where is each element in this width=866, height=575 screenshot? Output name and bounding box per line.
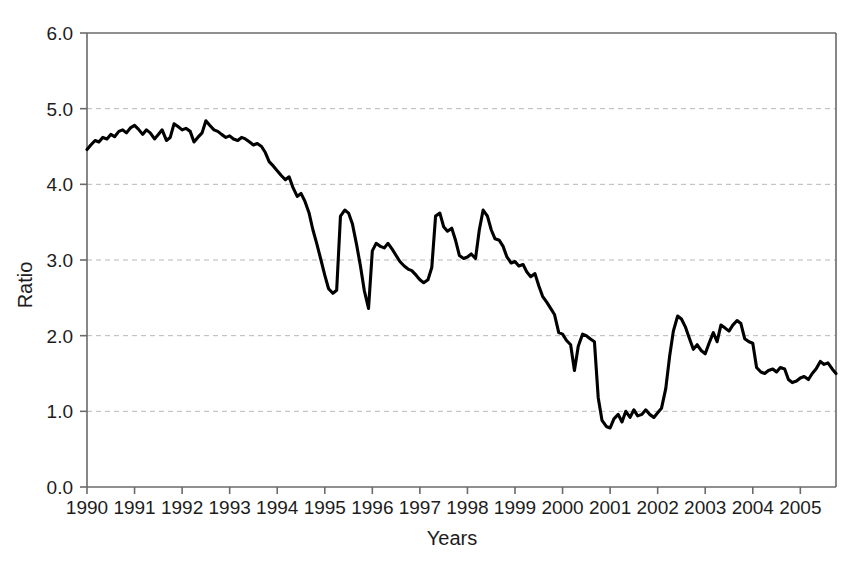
x-tick-label: 1998 — [446, 497, 488, 518]
x-tick-label: 1995 — [304, 497, 346, 518]
y-tick-label: 5.0 — [47, 99, 73, 120]
line-chart: 0.01.02.03.04.05.06.0 199019911992199319… — [0, 0, 866, 575]
y-axis-tick-labels: 0.01.02.03.04.05.06.0 — [47, 23, 73, 498]
y-axis-title: Ratio — [14, 262, 36, 309]
y-tick-label: 2.0 — [47, 326, 73, 347]
x-tick-label: 2000 — [541, 497, 583, 518]
x-axis-ticks — [87, 487, 800, 494]
x-axis-tick-labels: 1990199119921993199419951996199719981999… — [66, 497, 822, 518]
x-tick-label: 1999 — [494, 497, 536, 518]
x-axis-title: Years — [427, 527, 477, 549]
y-tick-label: 4.0 — [47, 174, 73, 195]
grid-lines — [87, 109, 836, 412]
x-tick-label: 2002 — [637, 497, 679, 518]
y-tick-label: 6.0 — [47, 23, 73, 44]
x-tick-label: 2001 — [589, 497, 631, 518]
data-series-line — [87, 121, 836, 428]
x-tick-label: 1992 — [161, 497, 203, 518]
chart-figure: 0.01.02.03.04.05.06.0 199019911992199319… — [0, 0, 866, 575]
y-tick-label: 0.0 — [47, 477, 73, 498]
y-tick-label: 3.0 — [47, 250, 73, 271]
x-tick-label: 1996 — [351, 497, 393, 518]
x-tick-label: 1994 — [256, 497, 299, 518]
x-tick-label: 1990 — [66, 497, 108, 518]
x-tick-label: 1993 — [209, 497, 251, 518]
x-tick-label: 1991 — [113, 497, 155, 518]
x-tick-label: 1997 — [399, 497, 441, 518]
y-tick-label: 1.0 — [47, 401, 73, 422]
x-tick-label: 2003 — [684, 497, 726, 518]
x-tick-label: 2005 — [779, 497, 821, 518]
y-axis-ticks — [80, 33, 87, 487]
x-tick-label: 2004 — [732, 497, 775, 518]
